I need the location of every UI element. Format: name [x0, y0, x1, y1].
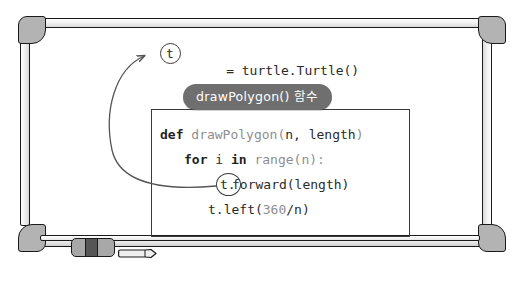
- assignment-expression: = turtle.Turtle(): [226, 63, 359, 78]
- frame-corner-bottom-right: [478, 224, 506, 252]
- def-parameters: n, length: [285, 127, 355, 142]
- def-close-paren: ): [356, 127, 364, 142]
- eraser-band: [85, 238, 98, 257]
- whiteboard-eraser: [71, 238, 115, 257]
- left-call-degrees: 360: [263, 202, 286, 217]
- forward-call: forward(length): [232, 177, 349, 192]
- code-line-assignment: t= turtle.Turtle(): [187, 47, 359, 95]
- code-line-forward: forward(length): [232, 177, 349, 193]
- def-function-name: drawPolygon(: [183, 127, 285, 142]
- forward-receiver-t: t.: [220, 177, 236, 192]
- code-line-for: for i in range(n):: [184, 152, 325, 168]
- for-iterable: range(n):: [247, 152, 325, 167]
- frame-bar-top: [38, 18, 482, 28]
- def-keyword: def: [160, 127, 183, 142]
- in-keyword: in: [231, 152, 247, 167]
- code-line-left: t.left(360/n): [208, 202, 310, 218]
- frame-bar-right: [482, 36, 492, 226]
- assignment-variable-t: t: [166, 46, 174, 61]
- for-loop-variable: i: [207, 152, 230, 167]
- frame-corner-top-left: [18, 16, 46, 44]
- frame-corner-top-right: [478, 16, 506, 44]
- marker-icon: [118, 248, 158, 259]
- code-line-def: def drawPolygon(n, length): [160, 127, 364, 143]
- left-call-suffix: /n): [286, 202, 309, 217]
- whiteboard-marker: [118, 248, 158, 259]
- illustration-canvas: drawPolygon() 함수 t= turtle.Turtle() def …: [0, 0, 520, 284]
- frame-bar-left: [20, 36, 30, 226]
- for-keyword: for: [184, 152, 207, 167]
- left-call-prefix: t.left(: [208, 202, 263, 217]
